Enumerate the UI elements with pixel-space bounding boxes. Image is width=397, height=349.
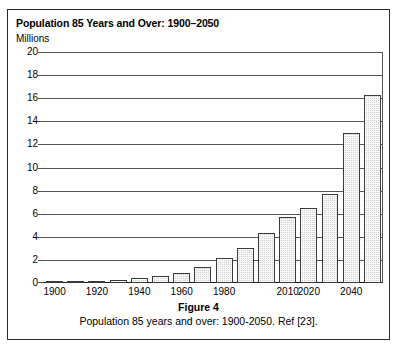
figure-page: Population 85 Years and Over: 1900–2050 …	[0, 0, 397, 349]
bar	[110, 280, 127, 283]
bar	[364, 95, 381, 283]
y-axis-tick-label: 4	[4, 232, 38, 242]
plot-area	[44, 52, 383, 283]
x-axis-tick-label: 1920	[86, 286, 108, 297]
bar	[258, 233, 275, 283]
x-axis-tick-label: 2040	[340, 286, 362, 297]
bar	[343, 133, 360, 283]
bar-series	[44, 52, 383, 283]
x-axis-tick-label: 1940	[128, 286, 150, 297]
bar	[173, 273, 190, 283]
x-axis-tick-label: 1960	[171, 286, 193, 297]
y-axis-tick-label: 12	[4, 139, 38, 149]
x-axis-tick-label: 2010	[277, 286, 299, 297]
bar	[131, 278, 148, 283]
y-axis-tick-label: 14	[4, 116, 38, 126]
y-axis-tick-label: 2	[4, 255, 38, 265]
bar	[216, 258, 233, 283]
y-axis-tick-label: 18	[4, 70, 38, 80]
y-axis-tick-label: 8	[4, 186, 38, 196]
x-axis-tick-labels: 19001920194019601980201020202040	[44, 286, 383, 300]
bar	[322, 194, 339, 283]
y-axis-tick-label: 0	[4, 278, 38, 288]
x-axis-tick-label: 1980	[213, 286, 235, 297]
caption-figure-number: Figure 4	[8, 301, 389, 314]
bar	[194, 267, 211, 283]
chart-title: Population 85 Years and Over: 1900–2050	[16, 17, 219, 29]
caption-description: Population 85 years and over: 1900-2050.…	[8, 315, 389, 328]
y-axis-title: Millions	[16, 33, 49, 44]
bar	[279, 217, 296, 283]
bar	[152, 276, 169, 283]
y-axis-tick-label: 6	[4, 209, 38, 219]
x-axis-tick-label: 1900	[43, 286, 65, 297]
bar	[46, 281, 63, 283]
x-axis-tick-label: 2020	[298, 286, 320, 297]
y-axis-tick-label: 10	[4, 163, 38, 173]
figure-caption: Figure 4 Population 85 years and over: 1…	[8, 301, 389, 328]
bar	[237, 248, 254, 283]
y-axis-tick-label: 16	[4, 93, 38, 103]
y-axis-tick-label: 20	[4, 47, 38, 57]
bar	[67, 281, 84, 283]
y-axis-tick-labels: 02468101214161820	[0, 52, 38, 283]
bar	[300, 208, 317, 283]
bar	[88, 281, 105, 283]
